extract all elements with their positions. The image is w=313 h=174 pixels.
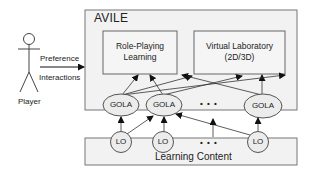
lo-ellipsis: • • •	[200, 138, 218, 147]
gola-label-1: GOLA	[103, 100, 139, 109]
diagram-canvas	[0, 0, 313, 174]
vlab-line2: (2D/3D)	[194, 52, 285, 63]
role-playing-learning-label: Role-Playing Learning	[103, 41, 177, 63]
player-label: Player	[18, 97, 41, 106]
interactions-label: Interactions	[39, 73, 80, 82]
preference-label: Preference	[40, 54, 79, 63]
gola-label-3: GOLA	[245, 101, 281, 110]
system-title: AVILE	[94, 11, 128, 25]
virtual-laboratory-label: Virtual Laboratory (2D/3D)	[194, 41, 285, 63]
gola-label-2: GOLA	[146, 100, 182, 109]
lo-label-3: LO	[248, 137, 268, 146]
player-actor-icon	[18, 34, 40, 93]
vlab-line1: Virtual Laboratory	[194, 41, 285, 52]
rpl-line1: Role-Playing	[103, 41, 177, 52]
lo-label-1: LO	[111, 137, 131, 146]
learning-content-label: Learning Content	[155, 151, 232, 162]
rpl-line2: Learning	[103, 52, 177, 63]
lo-label-2: LO	[153, 137, 173, 146]
lo-to-gola-arrows	[121, 114, 258, 137]
gola-ellipsis: • • •	[200, 99, 218, 108]
